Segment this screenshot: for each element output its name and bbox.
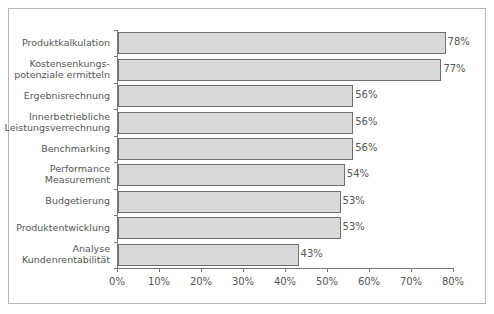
bar-value-label: 54%: [347, 168, 369, 179]
category-label: AnalyseKundenrentabilität: [22, 243, 110, 265]
bar-value-label: 78%: [448, 36, 470, 47]
category-label: Produktkalkulation: [22, 37, 110, 48]
category-label: Produktentwicklung: [16, 222, 110, 233]
bar-value-label: 56%: [355, 142, 377, 153]
category-label: Kostensenkungs-potenziale ermitteln: [14, 58, 110, 80]
bar: [118, 244, 299, 266]
category-label: InnerbetrieblicheLeistungsverrechnung: [5, 111, 110, 133]
y-axis: [117, 30, 118, 268]
bar: [118, 217, 341, 239]
bar: [118, 59, 441, 81]
x-tick-label: 70%: [400, 276, 422, 287]
x-tick-label: 30%: [232, 276, 254, 287]
bar: [118, 85, 353, 107]
x-tick-label: 80%: [442, 276, 464, 287]
category-label: Budgetierung: [45, 195, 110, 206]
x-tick-label: 40%: [274, 276, 296, 287]
x-tick-label: 10%: [148, 276, 170, 287]
category-label: PerformanceMeasurement: [45, 163, 110, 185]
bar-value-label: 77%: [443, 63, 465, 74]
bar: [118, 112, 353, 134]
bar: [118, 138, 353, 160]
x-tick-label: 50%: [316, 276, 338, 287]
x-tick-label: 20%: [190, 276, 212, 287]
bar-value-label: 43%: [301, 248, 323, 259]
bar: [118, 191, 341, 213]
x-axis: [117, 268, 454, 269]
bar-value-label: 53%: [343, 195, 365, 206]
x-tick-label: 0%: [109, 276, 125, 287]
bar-value-label: 53%: [343, 221, 365, 232]
bar: [118, 32, 446, 54]
bar-value-label: 56%: [355, 116, 377, 127]
bar: [118, 164, 345, 186]
x-tick-label: 60%: [358, 276, 380, 287]
category-label: Ergebnisrechnung: [24, 90, 110, 101]
category-label: Benchmarking: [41, 143, 110, 154]
bar-value-label: 56%: [355, 89, 377, 100]
